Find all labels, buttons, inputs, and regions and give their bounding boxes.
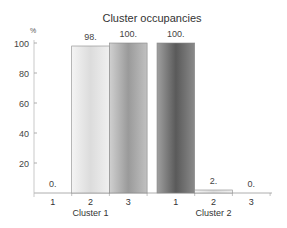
bar-chart: Cluster occupancies % 20406080100 0.198.… [0,0,287,228]
group-label: Cluster 1 [73,208,109,218]
x-tick-label: 3 [126,197,131,207]
x-tick-label: 1 [50,197,55,207]
data-label: 0. [247,179,255,189]
chart-title: Cluster occupancies [102,12,202,24]
x-tick-label: 2 [211,197,216,207]
data-label: 2. [210,176,218,186]
x-tick-label: 1 [173,197,178,207]
data-label: 0. [49,179,57,189]
x-tick-label: 2 [88,197,93,207]
data-label: 100. [167,29,185,39]
y-tick-label: 60 [19,99,29,109]
bar [157,43,195,193]
y-tick-label: 80 [19,69,29,79]
bar [195,190,233,193]
y-tick-label: 100 [14,39,29,49]
bar [72,46,110,193]
x-tick-label: 3 [249,197,254,207]
data-label: 100. [119,29,137,39]
y-axis-label: % [30,27,36,34]
y-tick-label: 20 [19,159,29,169]
y-tick-label: 40 [19,129,29,139]
bar [109,43,147,193]
group-label: Cluster 2 [196,208,232,218]
data-label: 98. [84,32,97,42]
